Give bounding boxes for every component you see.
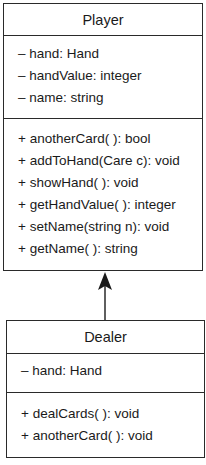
methods-section-player: + anotherCard( ): bool + addToHand(Care … xyxy=(4,119,202,260)
method-anothercard: + anotherCard( ): void xyxy=(21,425,204,447)
method-dealcards: + dealCards( ): void xyxy=(21,403,204,425)
attribute-hand: – hand: Hand xyxy=(21,360,204,382)
method-setname: + setName(string n): void xyxy=(18,216,202,238)
attributes-section-player: – hand: Hand – handValue: integer – name… xyxy=(4,36,202,119)
methods-section-dealer: + dealCards( ): void + anotherCard( ): v… xyxy=(7,393,204,447)
attribute-name: – name: string xyxy=(18,87,202,109)
method-gethandvalue: + getHandValue( ): integer xyxy=(18,194,202,216)
attributes-section-dealer: – hand: Hand xyxy=(7,354,204,393)
class-box-dealer: Dealer – hand: Hand + dealCards( ): void… xyxy=(6,320,205,458)
method-anothercard: + anotherCard( ): bool xyxy=(18,128,202,150)
method-addtohand: + addToHand(Care c): void xyxy=(18,150,202,172)
attribute-hand: – hand: Hand xyxy=(18,43,202,65)
attribute-handvalue: – handValue: integer xyxy=(18,65,202,87)
arrowhead-icon xyxy=(98,272,112,290)
class-box-player: Player – hand: Hand – handValue: integer… xyxy=(3,3,203,271)
class-name-dealer: Dealer xyxy=(7,321,204,354)
method-showhand: + showHand( ): void xyxy=(18,172,202,194)
class-name-player: Player xyxy=(4,4,202,36)
method-getname: + getName( ): string xyxy=(18,238,202,260)
